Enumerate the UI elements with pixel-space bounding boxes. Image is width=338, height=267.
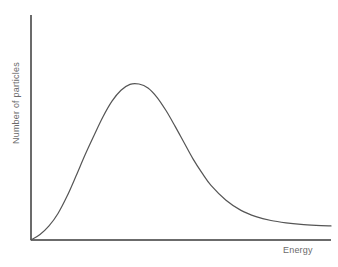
axes-group <box>31 15 331 240</box>
plot-area <box>0 0 338 267</box>
chart-figure: Number of particles Energy <box>0 0 338 267</box>
x-axis-label: Energy <box>283 246 313 255</box>
y-axis-label: Number of particles <box>12 62 21 144</box>
distribution-curve <box>31 84 331 240</box>
series-group <box>31 84 331 240</box>
